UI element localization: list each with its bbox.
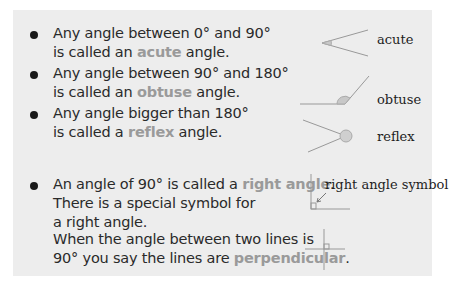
reflex-angle-icon bbox=[303, 120, 352, 152]
label-reflex: reflex bbox=[377, 129, 415, 144]
content-panel: Any angle between 0° and 90° is called a… bbox=[13, 10, 432, 276]
acute-angle-icon bbox=[322, 30, 368, 56]
angle-diagrams bbox=[13, 10, 432, 276]
perpendicular-lines-icon bbox=[305, 229, 345, 270]
label-obtuse: obtuse bbox=[377, 92, 421, 107]
label-acute: acute bbox=[377, 32, 413, 47]
obtuse-angle-icon bbox=[300, 76, 369, 104]
label-right-angle-symbol: right angle symbol bbox=[325, 177, 449, 192]
